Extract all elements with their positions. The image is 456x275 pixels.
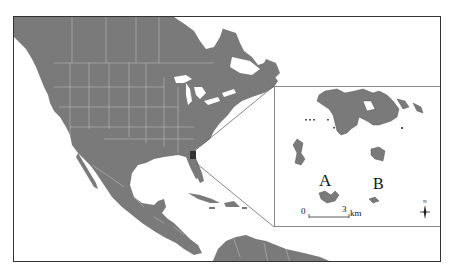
island-east xyxy=(371,147,385,161)
site-label-a: A xyxy=(319,171,331,191)
island-b xyxy=(369,197,379,203)
island-a xyxy=(319,191,339,203)
inset-map: A B 0 3 km N xyxy=(274,86,441,227)
south-america-landmass xyxy=(212,235,334,262)
island-west xyxy=(293,139,305,165)
scale-unit-label: km xyxy=(350,208,362,218)
scale-end-label: 3 xyxy=(342,204,347,214)
site-label-b: B xyxy=(373,175,384,193)
island-cluster-main xyxy=(317,89,399,135)
map-frame: A B 0 3 km N xyxy=(13,16,441,262)
inset-connector-bottom xyxy=(196,163,274,227)
north-label: N xyxy=(423,199,427,204)
inset-islands xyxy=(275,87,441,228)
caribbean-islands xyxy=(188,193,247,209)
scale-start-label: 0 xyxy=(301,206,306,216)
study-area-marker xyxy=(190,151,196,159)
